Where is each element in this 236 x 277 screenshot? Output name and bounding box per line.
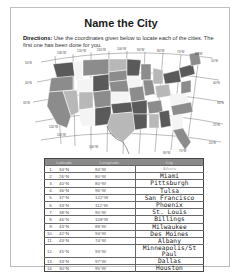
svg-text:20°N: 20°N [209, 141, 216, 145]
svg-text:100°W: 100°W [117, 47, 126, 51]
table-header-row: Latitude Longitude City [45, 159, 204, 166]
table-row: 1.34°N84°WAtlanta [45, 166, 204, 173]
city-answer[interactable]: Pittsburgh [136, 180, 204, 187]
lon-label: 130°W [57, 51, 66, 55]
city-answer[interactable]: Billings [136, 216, 204, 223]
table-row: 8.46°N108°WBillings [45, 216, 204, 223]
svg-text:30°N: 30°N [217, 101, 224, 105]
us-map: 130°W 120°W 110°W 100°W 90°W 80°W 70°W 6… [23, 46, 228, 158]
svg-text:50°N: 50°N [25, 61, 32, 65]
svg-text:80°W: 80°W [163, 151, 171, 155]
header-city: City [136, 159, 204, 166]
svg-text:35°N: 35°N [23, 101, 30, 105]
svg-text:90°W: 90°W [137, 48, 145, 52]
header-longitude: Longitude [83, 159, 136, 166]
table-row: 3.40°N80°WPittsburgh [45, 180, 204, 187]
svg-text:110°W: 110°W [57, 133, 66, 137]
worksheet-title: Name the City [11, 17, 231, 29]
svg-text:50°N: 50°N [211, 59, 218, 63]
table-row: 12.45°N93°WMinneapolis/St Paul [45, 245, 204, 258]
svg-text:40°N: 40°N [213, 81, 220, 85]
coordinates-table: Latitude Longitude City 1.34°N84°WAtlant… [44, 158, 204, 272]
svg-text:70°W: 70°W [177, 50, 185, 54]
svg-text:120°W: 120°W [77, 49, 86, 53]
city-answer[interactable]: Minneapolis/St Paul [136, 245, 204, 258]
svg-text:40°N: 40°N [25, 81, 32, 85]
header-latitude: Latitude [45, 159, 84, 166]
svg-text:110°W: 110°W [97, 48, 106, 52]
svg-text:60°W: 60°W [195, 52, 203, 56]
svg-text:120°W: 120°W [49, 125, 58, 129]
city-answer[interactable]: Houston [136, 265, 204, 272]
svg-text:80°W: 80°W [157, 49, 165, 53]
svg-text:100°W: 100°W [89, 145, 98, 149]
directions-label: Directions: [23, 35, 52, 41]
worksheet-page: Name the City Directions: Use the coordi… [10, 7, 230, 267]
table-row: 14.30°N95°WHouston [45, 265, 204, 272]
svg-text:70°W: 70°W [179, 149, 187, 153]
svg-text:25°N: 25°N [213, 123, 220, 127]
